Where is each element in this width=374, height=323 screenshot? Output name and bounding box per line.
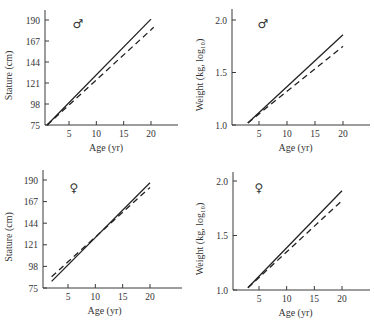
y-axis-label: Weight (kg, log₁₀) bbox=[194, 203, 206, 276]
y-tick-label: 98 bbox=[31, 100, 41, 110]
x-tick-label: 20 bbox=[146, 129, 156, 139]
y-axis-label: Stature (cm) bbox=[3, 51, 15, 101]
y-tick-label: 2.0 bbox=[216, 177, 228, 187]
y-tick-label: 1.5 bbox=[216, 231, 228, 241]
x-axis-label: Age (yr) bbox=[278, 142, 312, 154]
male-symbol-icon: ♂ bbox=[73, 17, 84, 31]
female-symbol-icon: ♀ bbox=[70, 181, 79, 195]
series-line-dashed bbox=[248, 201, 342, 288]
series-line-dashed bbox=[47, 27, 154, 125]
y-tick-label: 2.0 bbox=[215, 16, 227, 26]
x-tick-label: 10 bbox=[282, 294, 292, 304]
series-line-solid bbox=[52, 183, 150, 282]
y-tick-label: 167 bbox=[24, 197, 39, 207]
x-axis-label: Age (yr) bbox=[89, 142, 123, 154]
x-tick-label: 5 bbox=[257, 294, 262, 304]
x-tick-label: 15 bbox=[310, 129, 320, 139]
y-tick-label: 121 bbox=[24, 240, 39, 250]
y-tick-label: 1.0 bbox=[216, 286, 228, 296]
x-tick-label: 5 bbox=[66, 292, 71, 302]
series-line-dashed bbox=[248, 46, 343, 123]
y-axis-label: Stature (cm) bbox=[3, 212, 15, 262]
x-tick-label: 5 bbox=[257, 129, 262, 139]
x-tick-label: 20 bbox=[145, 292, 155, 302]
series-line-solid bbox=[248, 191, 342, 288]
x-tick-label: 20 bbox=[337, 294, 347, 304]
x-tick-label: 10 bbox=[91, 292, 101, 302]
x-tick-label: 20 bbox=[338, 129, 348, 139]
x-tick-label: 10 bbox=[92, 129, 102, 139]
figure: 51015207598121144167190Age (yr)Stature (… bbox=[0, 0, 374, 323]
y-tick-label: 98 bbox=[29, 262, 39, 272]
y-tick-label: 144 bbox=[26, 58, 41, 68]
male-symbol-icon: ♂ bbox=[258, 17, 269, 31]
x-axis-label: Age (yr) bbox=[87, 305, 121, 317]
x-axis-label: Age (yr) bbox=[278, 307, 312, 319]
y-tick-label: 167 bbox=[26, 37, 41, 47]
x-tick-label: 15 bbox=[310, 294, 320, 304]
series-line-solid bbox=[47, 19, 151, 125]
y-tick-label: 190 bbox=[24, 176, 39, 186]
y-tick-label: 75 bbox=[31, 121, 41, 131]
series-line-solid bbox=[248, 35, 343, 123]
y-tick-label: 144 bbox=[24, 219, 39, 229]
female-symbol-icon: ♀ bbox=[255, 181, 264, 195]
y-axis-label: Weight (kg, log₁₀) bbox=[194, 39, 206, 112]
x-tick-label: 10 bbox=[282, 129, 292, 139]
y-tick-label: 121 bbox=[26, 79, 41, 89]
y-tick-label: 1.0 bbox=[215, 121, 227, 131]
x-tick-label: 15 bbox=[119, 129, 129, 139]
y-tick-label: 75 bbox=[29, 284, 39, 294]
x-tick-label: 15 bbox=[118, 292, 128, 302]
y-tick-label: 190 bbox=[26, 16, 41, 26]
x-tick-label: 5 bbox=[67, 129, 72, 139]
y-tick-label: 1.5 bbox=[215, 68, 227, 78]
